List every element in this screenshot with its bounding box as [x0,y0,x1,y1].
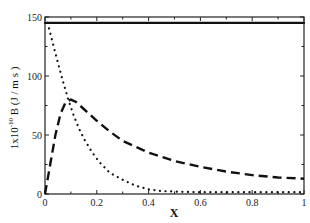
x-tick-label: 0 [43,197,48,208]
line-chart: 00.20.40.60.81 050100150 X 1x10-10 B (J … [0,0,310,223]
series-layer [45,23,304,194]
plot-frame [45,17,304,194]
y-axis-ticks: 050100150 [27,12,304,200]
y-axis-label-prefix: 1x10 [8,127,20,150]
x-tick-label: 0.4 [142,197,155,208]
y-tick-label: 100 [27,71,42,82]
x-tick-label: 0.8 [246,197,259,208]
x-tick-label: 0.6 [194,197,207,208]
x-axis-label: X [170,206,179,220]
y-axis-label: 1x10-10 B (J / m s ) [7,66,21,149]
series-dashed-line [45,100,304,194]
plot-border [45,17,304,194]
y-tick-label: 0 [37,189,42,200]
y-axis-label-suffix: B (J / m s ) [8,66,21,118]
x-axis-ticks: 00.20.40.60.81 [43,17,307,208]
y-axis-label-exponent: -10 [7,118,15,128]
series-dotted-line [48,23,304,192]
x-tick-label: 0.2 [91,197,104,208]
y-tick-label: 50 [32,130,42,141]
x-tick-label: 1 [302,197,307,208]
y-tick-label: 150 [27,12,42,23]
